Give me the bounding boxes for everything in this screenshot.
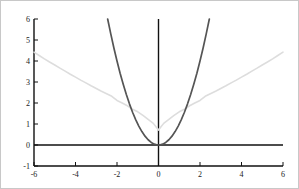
x-tick-label: -6 [31,170,38,179]
x-tick-label: 6 [281,170,285,179]
x-tick-label: -4 [72,170,79,179]
x-tick-label: 0 [157,170,161,179]
y-tick-label: 1 [26,120,30,129]
axes-group [34,19,283,166]
x-tick-label: 2 [198,170,202,179]
plot-area: -10123456-6-4-20246 [0,0,299,189]
y-tick-label: 6 [26,15,30,24]
y-tick-label: 3 [26,78,30,87]
y-tick-label: 2 [26,99,30,108]
chart-figure: -10123456-6-4-20246 [0,0,299,189]
tick-labels-group: -10123456-6-4-20246 [23,15,285,179]
y-tick-label: 5 [26,36,30,45]
y-tick-label: -1 [23,162,30,171]
x-tick-label: 4 [240,170,244,179]
y-tick-label: 4 [26,57,30,66]
y-tick-label: 0 [26,141,30,150]
x-tick-label: -2 [114,170,121,179]
